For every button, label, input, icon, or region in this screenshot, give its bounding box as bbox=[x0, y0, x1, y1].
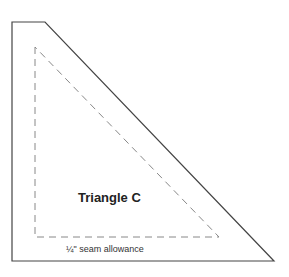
template-drawing bbox=[0, 0, 289, 277]
seam-line bbox=[35, 47, 219, 237]
cutting-outline bbox=[12, 22, 274, 261]
seam-allowance-label: ¼" seam allowance bbox=[66, 244, 144, 254]
triangle-c-template: Triangle C ¼" seam allowance bbox=[0, 0, 289, 277]
piece-title: Triangle C bbox=[78, 190, 141, 205]
